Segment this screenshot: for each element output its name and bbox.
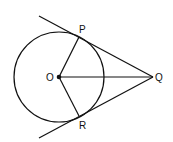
label-o: O <box>46 72 54 83</box>
geometry-diagram: P O Q R <box>0 0 173 142</box>
center-point-o <box>57 75 62 80</box>
segment-op <box>59 37 79 77</box>
label-p: P <box>79 24 86 35</box>
tangent-line-qr <box>39 77 153 138</box>
label-q: Q <box>155 72 163 83</box>
segment-or <box>59 77 79 116</box>
tangent-line-qp <box>39 16 153 77</box>
label-r: R <box>79 120 86 131</box>
